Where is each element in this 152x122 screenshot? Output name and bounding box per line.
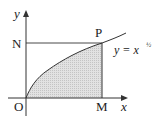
shaded-area	[26, 43, 102, 98]
curve-equation: y = x	[113, 43, 139, 57]
x-axis-label: x	[120, 99, 127, 114]
y-axis-label: y	[12, 6, 20, 21]
label-n: N	[12, 36, 22, 51]
diagram-canvas: y N P y = x ½ O M x	[0, 0, 152, 122]
curve-exponent: ½	[146, 41, 152, 49]
label-m: M	[96, 99, 108, 114]
y-axis-arrow-icon	[23, 10, 29, 17]
label-origin: O	[14, 99, 23, 114]
label-p: P	[95, 25, 102, 40]
